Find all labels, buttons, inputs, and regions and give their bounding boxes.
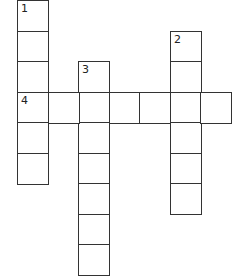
crossword-cell[interactable] [17, 153, 49, 185]
clue-number: 1 [21, 3, 28, 15]
crossword-cell[interactable] [78, 122, 110, 154]
crossword-cell[interactable] [78, 214, 110, 246]
crossword-cell[interactable] [17, 61, 49, 93]
crossword-cell[interactable] [170, 122, 202, 154]
clue-number: 3 [82, 64, 89, 76]
clue-number: 4 [21, 95, 28, 107]
crossword-cell[interactable] [200, 92, 232, 124]
crossword-cell[interactable] [170, 61, 202, 93]
crossword-cell[interactable]: 2 [170, 31, 202, 63]
crossword-cell[interactable] [170, 92, 202, 124]
crossword-cell[interactable] [139, 92, 171, 124]
crossword-cell[interactable] [78, 244, 110, 276]
crossword-cell[interactable]: 3 [78, 61, 110, 93]
crossword-cell[interactable] [48, 92, 80, 124]
crossword-cell[interactable] [170, 183, 202, 215]
crossword-cell[interactable] [109, 92, 141, 124]
clue-number: 2 [174, 34, 181, 46]
crossword-cell[interactable] [170, 153, 202, 185]
crossword-cell[interactable] [78, 92, 110, 124]
crossword-cell[interactable] [78, 183, 110, 215]
crossword-cell[interactable] [17, 31, 49, 63]
crossword-cell[interactable]: 4 [17, 92, 49, 124]
crossword-cell[interactable] [78, 153, 110, 185]
crossword-cell[interactable]: 1 [17, 0, 49, 32]
crossword-cell[interactable] [17, 122, 49, 154]
